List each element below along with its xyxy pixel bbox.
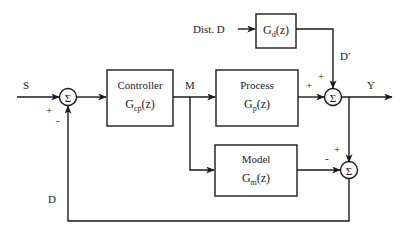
process-transfer-function: Gp(z) [244,97,270,113]
setpoint-signal: S [17,79,59,97]
sum-model-error-symbol: Σ [346,165,352,177]
model-label: Model [242,153,271,165]
disturbance-transfer-function: Gd(z) [263,23,289,39]
model-transfer-function: Gm(z) [242,171,270,187]
sum-model-error-minus-sign: - [325,152,329,164]
disturbance-input-label: Dist. D [193,23,225,35]
feedback-label: D [48,193,56,205]
imc-block-diagram: S Σ + - Controller Gcp(z) M Process Gp(z… [0,0,408,236]
sum-output-plus-top: + [318,70,324,82]
disturbance-effect-label: D′ [340,50,350,62]
sum-model-error: Σ + - [325,143,358,179]
manipulated-label: M [185,79,195,91]
controller-block: Controller Gcp(z) [107,70,173,126]
controller-label: Controller [117,79,163,91]
setpoint-label: S [23,79,29,91]
model-block: Model Gm(z) [215,145,297,196]
process-label: Process [240,79,274,91]
sum-output: Σ + + [306,70,342,106]
sum-setpoint-plus-sign: + [46,104,52,116]
sum-output-symbol: Σ [330,92,336,104]
sum-setpoint-symbol: Σ [65,92,71,104]
sum-setpoint: Σ + - [46,89,77,127]
process-block: Process Gp(z) [216,70,298,126]
sum-setpoint-minus-sign: - [56,114,60,126]
manipulated-arrow-model [190,97,214,170]
sum-output-plus-left: + [306,79,312,91]
disturbance-effect-arrow [296,29,333,88]
sum-model-error-plus-sign: + [334,143,340,155]
output-label: Y [367,79,375,91]
